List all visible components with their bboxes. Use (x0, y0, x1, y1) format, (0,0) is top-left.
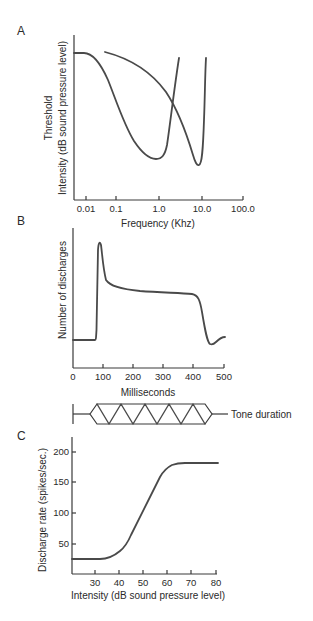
panel-b-ylabel: Number of discharges (57, 241, 68, 339)
panel-a-tuning-curve-1 (74, 53, 179, 159)
panel-c-ytick-100: 100 (53, 507, 69, 518)
panel-c-xtick-1: 40 (114, 577, 125, 588)
panel-c-ytick-50: 50 (58, 538, 69, 549)
figure-canvas: A Threshold Intensity (dB sound pressure… (0, 0, 313, 621)
panel-c: C Discharge rate (spikes/sec.) 200 150 1… (17, 429, 225, 601)
tone-duration-label: Tone duration (231, 409, 292, 420)
panel-c-label: C (17, 429, 26, 443)
panel-c-xlabel: Intensity (dB sound pressure level) (71, 590, 225, 601)
panel-c-rate-intensity-curve (72, 463, 218, 559)
panel-c-ylabel: Discharge rate (spikes/sec.) (37, 448, 48, 572)
panel-a-xtick-0: 0.01 (77, 203, 96, 214)
panel-a-xtick-3: 10.0 (193, 203, 212, 214)
panel-b: B Number of discharges 0 100 200 300 400… (17, 214, 292, 424)
tone-duration-stimulus: Tone duration (73, 404, 292, 424)
panel-c-xtick-4: 70 (186, 577, 197, 588)
panel-c-xtick-3: 60 (162, 577, 173, 588)
panel-a-xtick-2: 1.0 (152, 203, 165, 214)
panel-b-xtick-0: 0 (70, 371, 75, 382)
panel-a-ylabel-line1: Threshold (43, 96, 54, 140)
panel-c-xtick-2: 50 (138, 577, 149, 588)
panel-a: A Threshold Intensity (dB sound pressure… (17, 24, 255, 229)
panel-b-xtick-5: 500 (216, 371, 232, 382)
panel-a-xtick-4: 100.0 (231, 203, 255, 214)
panel-c-xtick-0: 30 (90, 577, 101, 588)
panel-a-label: A (17, 24, 25, 38)
panel-b-xtick-4: 400 (185, 371, 201, 382)
panel-b-label: B (17, 214, 25, 228)
panel-b-xtick-3: 300 (155, 371, 171, 382)
panel-a-xtick-1: 0.1 (109, 203, 122, 214)
panel-b-xlabel: Milliseconds (121, 387, 175, 398)
panel-b-discharge-curve (73, 243, 225, 345)
panel-b-xtick-2: 200 (125, 371, 141, 382)
panel-c-ytick-200: 200 (53, 446, 69, 457)
tone-sinewave-icon (97, 404, 205, 424)
panel-c-ytick-150: 150 (53, 476, 69, 487)
panel-c-xtick-5: 80 (211, 577, 222, 588)
panel-a-tuning-curve-2 (105, 52, 206, 165)
panel-a-xlabel: Frequency (Khz) (121, 218, 195, 229)
panel-b-xtick-1: 100 (95, 371, 111, 382)
panel-a-ylabel-line2: Intensity (dB sound pressure level) (57, 41, 68, 195)
